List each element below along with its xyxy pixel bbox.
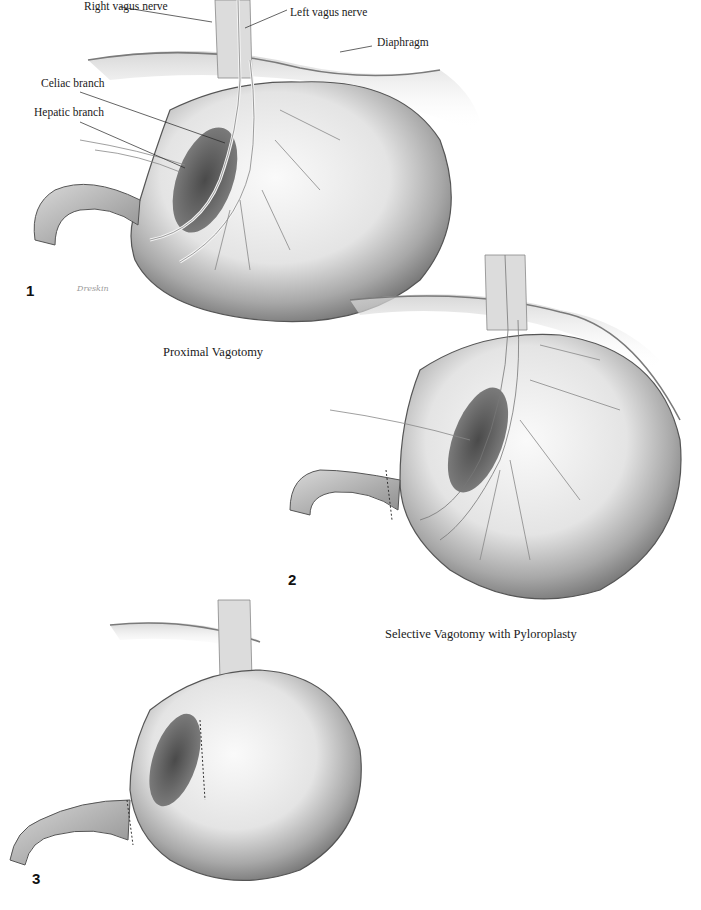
figure-number-1: 1 [26,282,34,299]
figure-number-2: 2 [288,571,296,588]
label-diaphragm: Diaphragm [377,36,429,48]
label-right-vagus-nerve: Right vagus nerve [84,0,168,12]
label-celiac-branch: Celiac branch [41,77,105,89]
artist-signature: Dreskin [77,284,109,293]
figure-1-illustration [34,0,480,322]
figure-3-illustration [10,600,361,880]
figure-1-caption: Proximal Vagotomy [163,345,263,360]
figure-number-3: 3 [32,870,40,887]
label-left-vagus-nerve: Left vagus nerve [290,6,367,18]
figure-2-caption: Selective Vagotomy with Pyloroplasty [385,627,577,642]
label-hepatic-branch: Hepatic branch [34,106,104,118]
illustration-canvas [0,0,701,910]
